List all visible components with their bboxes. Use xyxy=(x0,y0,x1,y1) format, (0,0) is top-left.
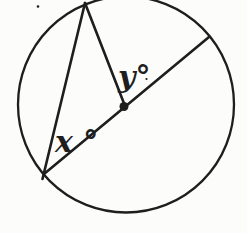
speck-dot-top-left xyxy=(37,5,40,8)
circle-angle-diagram: x ° y° xyxy=(0,0,247,233)
diagram-canvas: x ° y° xyxy=(0,0,247,233)
center-dot xyxy=(120,102,129,111)
angle-label-y: y° xyxy=(117,59,150,94)
angle-label-x: x ° xyxy=(54,124,98,159)
